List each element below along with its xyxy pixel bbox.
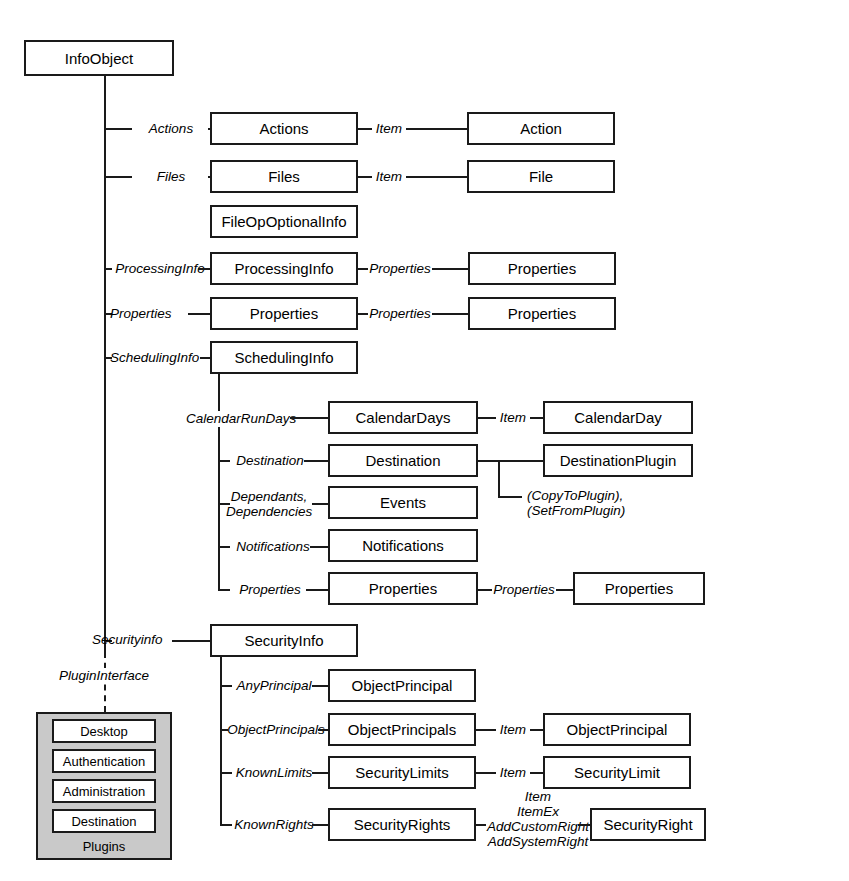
node-label: Files (268, 169, 300, 184)
edge-label-objectprincipals: ObjectPrincipals (226, 723, 326, 737)
node-destination[interactable]: Destination (328, 444, 478, 477)
edge-sched-properties-stub (218, 589, 230, 591)
edge-label-actions-item: Item (372, 122, 406, 136)
edge-securityinfo-line (172, 640, 212, 642)
node-label: Properties (250, 306, 318, 321)
node-label: SecurityLimit (574, 765, 660, 780)
plugin-item-destination[interactable]: Destination (52, 809, 156, 833)
edge-label-processinginfo: ProcessingInfo (112, 262, 208, 276)
plugin-item-authentication[interactable]: Authentication (52, 749, 156, 773)
node-label: CalendarDay (574, 410, 662, 425)
edge-destination-stub (218, 460, 230, 462)
node-label: SecurityInfo (244, 633, 323, 648)
edge-label-schedulinginfo: SchedulingInfo (110, 351, 210, 365)
edge-properties-props-line (432, 313, 470, 315)
node-objectprincipal-item[interactable]: ObjectPrincipal (543, 713, 691, 746)
plugin-item-administration[interactable]: Administration (52, 779, 156, 803)
edge-label-processinginfo-properties: Properties (368, 262, 432, 276)
plugins-group-caption: Plugins (36, 839, 172, 854)
plugin-item-desktop[interactable]: Desktop (52, 719, 156, 743)
edge-label-dependants: Dependants, Dependencies (226, 489, 312, 519)
plugin-label: Administration (63, 785, 145, 798)
edge-label-calendardays-item: Item (496, 411, 530, 425)
edge-files-item-line (406, 176, 468, 178)
node-label: SecurityRights (354, 817, 451, 832)
node-label: ObjectPrincipals (348, 722, 456, 737)
edge-label-objectprincipals-item: Item (496, 723, 530, 737)
edge-calendardays-item-stub (478, 417, 496, 419)
node-label: ObjectPrincipal (352, 678, 453, 693)
edge-calendarrundays-line (290, 417, 330, 419)
node-objectprincipal-any[interactable]: ObjectPrincipal (328, 669, 476, 702)
node-destinationplugin[interactable]: DestinationPlugin (543, 444, 693, 477)
node-sched-properties[interactable]: Properties (328, 572, 478, 605)
edge-label-securitylimits-item: Item (496, 766, 530, 780)
node-label: InfoObject (65, 51, 133, 66)
edge-processinginfo-props-line (432, 268, 470, 270)
edge-objectprincipals-item-stub (476, 729, 496, 731)
node-fileopoptionalinfo[interactable]: FileOpOptionalInfo (210, 205, 358, 238)
edge-sched-properties-props-stub (478, 589, 492, 591)
edge-label-calendarrundays: CalendarRunDays (186, 411, 296, 427)
node-securitylimits[interactable]: SecurityLimits (328, 756, 476, 789)
edge-knownlimits-stub (220, 772, 232, 774)
node-label: SecurityRight (603, 817, 692, 832)
node-label: Events (380, 495, 426, 510)
node-file[interactable]: File (467, 160, 615, 193)
node-infoobject[interactable]: InfoObject (24, 40, 174, 76)
edge-sched-properties-line (306, 589, 330, 591)
node-securityinfo[interactable]: SecurityInfo (210, 624, 358, 657)
trunk-line-securityinfo (220, 657, 222, 825)
edge-notifications-line (310, 546, 330, 548)
edge-destination-plugin-line (478, 460, 546, 462)
edge-processinginfo-stub (104, 268, 112, 270)
edge-label-sched-properties-properties: Properties (492, 583, 556, 597)
node-label: SchedulingInfo (234, 350, 333, 365)
plugin-label: Desktop (80, 725, 128, 738)
node-notifications[interactable]: Notifications (328, 529, 478, 562)
node-processinginfo-properties[interactable]: Properties (468, 252, 616, 285)
node-calendardays[interactable]: CalendarDays (328, 401, 478, 434)
edge-label-plugininterface: PluginInterface (48, 668, 160, 684)
plugin-label: Authentication (63, 755, 145, 768)
edge-label-anyprincipal: AnyPrincipal (232, 679, 316, 693)
edge-notifications-stub (218, 546, 230, 548)
edge-label-destination-plugin-note: (CopyToPlugin), (SetFromPlugin) (527, 488, 667, 518)
node-label: Properties (605, 581, 673, 596)
node-sched-properties-properties[interactable]: Properties (573, 572, 705, 605)
edge-destination-note-elbow (498, 496, 522, 498)
node-actions-collection[interactable]: Actions (210, 112, 358, 145)
node-label: SecurityLimits (355, 765, 448, 780)
node-properties[interactable]: Properties (210, 297, 358, 330)
edge-label-properties-properties: Properties (368, 307, 432, 321)
node-label: FileOpOptionalInfo (221, 214, 346, 229)
node-label: Destination (365, 453, 440, 468)
edge-label-destination: Destination (230, 454, 310, 468)
node-schedulinginfo[interactable]: SchedulingInfo (210, 341, 358, 374)
node-objectprincipals[interactable]: ObjectPrincipals (328, 713, 476, 746)
node-properties-properties[interactable]: Properties (468, 297, 616, 330)
node-files-collection[interactable]: Files (210, 160, 358, 193)
node-securityright[interactable]: SecurityRight (590, 808, 706, 841)
node-action[interactable]: Action (467, 112, 615, 145)
diagram-canvas: InfoObject Actions Actions Item Action F… (0, 0, 849, 881)
edge-anyprincipal-stub (220, 685, 232, 687)
edge-label-notifications: Notifications (230, 540, 316, 554)
node-calendarday[interactable]: CalendarDay (543, 401, 693, 434)
node-securitylimit[interactable]: SecurityLimit (543, 756, 691, 789)
edge-label-knownlimits: KnownLimits (232, 766, 316, 780)
node-label: Properties (369, 581, 437, 596)
edge-label-sched-properties: Properties (230, 583, 310, 597)
trunk-line-main (104, 76, 106, 652)
node-label: DestinationPlugin (560, 453, 677, 468)
edge-properties-line (188, 313, 212, 315)
node-events[interactable]: Events (328, 486, 478, 519)
edge-label-knownrights: KnownRights (232, 818, 316, 832)
edge-label-files-item: Item (372, 170, 406, 184)
edge-properties-props-stub (358, 313, 368, 315)
edge-securitylimits-item-stub (476, 772, 496, 774)
edge-files-stub (104, 176, 132, 178)
node-securityrights[interactable]: SecurityRights (328, 808, 476, 841)
node-processinginfo[interactable]: ProcessingInfo (210, 252, 358, 285)
node-label: Action (520, 121, 562, 136)
